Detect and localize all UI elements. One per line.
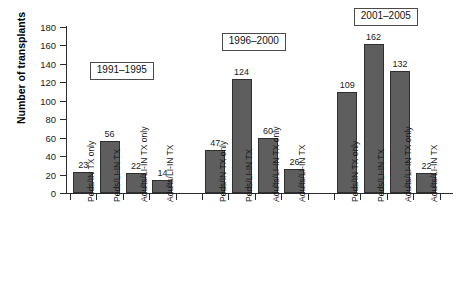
- x-axis-category-label: Peds/LI-IN TX: [113, 149, 122, 202]
- group-label-box: 2001–2005: [354, 8, 418, 26]
- x-axis-tick: [255, 194, 256, 200]
- x-axis-tick: [334, 194, 335, 200]
- y-axis-tick-label: 160: [30, 41, 56, 51]
- group-label-box: 1996–2000: [222, 33, 286, 51]
- y-axis-tick: [60, 193, 67, 194]
- group-label-box: 1991–1995: [90, 62, 154, 80]
- bar-value-label: 124: [226, 68, 258, 77]
- x-axis-category-label: Adults/LI-IN TX: [430, 145, 439, 202]
- x-axis-category-label: Peds/IN TX only: [87, 141, 96, 202]
- y-axis-tick-label: 120: [30, 78, 56, 88]
- x-axis-tick: [281, 194, 282, 200]
- x-axis-category-label: Adults/LI-IN TX only: [272, 127, 281, 202]
- y-axis-tick-label: 80: [30, 115, 56, 125]
- y-axis-tick-label: 180: [30, 23, 56, 33]
- x-axis-category-label: Adults/LI-IN TX: [166, 145, 175, 202]
- bar-value-label: 132: [384, 60, 416, 69]
- x-axis-tick: [387, 194, 388, 200]
- y-axis-tick-label: 0: [30, 189, 56, 199]
- bar-value-label: 56: [94, 130, 126, 139]
- x-axis-category-label: Peds/IN TX only: [351, 141, 360, 202]
- y-axis-tick-label: 20: [30, 171, 56, 181]
- x-axis-category-label: Peds/LI-IN TX: [245, 149, 254, 202]
- x-axis-tick: [176, 194, 177, 200]
- y-axis-title: Number of transplants: [15, 3, 27, 133]
- x-axis-category-label: Adults/LI-IN TX only: [140, 127, 149, 202]
- x-axis-tick: [123, 194, 124, 200]
- x-axis-category-label: Peds/LI-IN TX: [377, 149, 386, 202]
- y-axis-tick-label: 100: [30, 97, 56, 107]
- bar-value-label: 109: [331, 81, 363, 90]
- x-axis-tick: [149, 194, 150, 200]
- x-axis-tick: [308, 194, 309, 200]
- x-axis-category-label: Adults/LI-IN TX: [298, 145, 307, 202]
- x-axis-tick: [413, 194, 414, 200]
- bar-value-label: 162: [358, 33, 390, 42]
- x-axis-tick: [228, 194, 229, 200]
- bar-chart-figure: Number of transplants 020406080100120140…: [0, 0, 460, 302]
- y-axis-tick-label: 60: [30, 134, 56, 144]
- x-axis-tick: [70, 194, 71, 200]
- x-axis-category-label: Adults/LI-IN TX only: [404, 127, 413, 202]
- x-axis-tick: [360, 194, 361, 200]
- x-axis-category-label: Peds/IN TX only: [219, 141, 228, 202]
- y-axis-tick-label: 40: [30, 152, 56, 162]
- x-axis-line: [66, 193, 453, 194]
- y-axis-tick-label: 140: [30, 60, 56, 70]
- x-axis-tick: [202, 194, 203, 200]
- x-axis-tick: [440, 194, 441, 200]
- x-axis-tick: [96, 194, 97, 200]
